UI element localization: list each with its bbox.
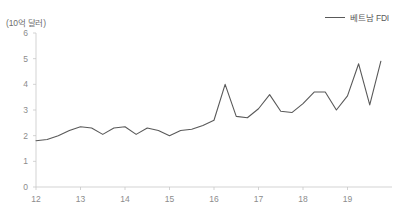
y-tick-label: 1: [23, 156, 28, 166]
y-tick-label: 5: [23, 54, 28, 64]
x-axis-ticks: 1213141516171819: [31, 187, 352, 204]
data-line-vietnam-fdi: [36, 61, 381, 141]
x-tick-label: 15: [165, 194, 175, 204]
x-tick-label: 19: [343, 194, 353, 204]
chart-plot-area: 0123456 1213141516171819: [0, 0, 397, 217]
x-tick-label: 13: [76, 194, 86, 204]
y-tick-label: 3: [23, 105, 28, 115]
x-tick-label: 17: [254, 194, 264, 204]
x-tick-label: 14: [120, 194, 130, 204]
x-tick-label: 18: [298, 194, 308, 204]
y-tick-label: 4: [23, 79, 28, 89]
chart-figure: (10억 달러) 베트남 FDI 0123456 121314151617181…: [0, 0, 397, 217]
y-tick-label: 2: [23, 131, 28, 141]
y-axis-ticks: 0123456: [23, 28, 36, 192]
y-tick-label: 6: [23, 28, 28, 38]
x-tick-label: 16: [209, 194, 219, 204]
x-tick-label: 12: [31, 194, 41, 204]
y-tick-label: 0: [23, 182, 28, 192]
